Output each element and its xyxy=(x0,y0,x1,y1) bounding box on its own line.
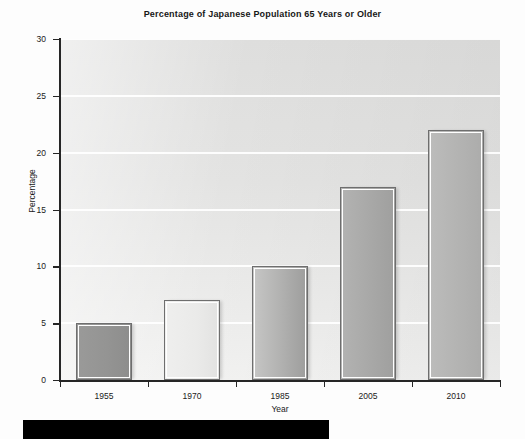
x-axis-tick-label: 2010 xyxy=(421,391,491,401)
bottom-black-band xyxy=(23,420,329,439)
bar-inner-highlight xyxy=(254,268,306,378)
y-axis-tick-label: 30 xyxy=(6,34,46,44)
x-axis-title: Year xyxy=(60,404,500,414)
y-axis-tick-label: 25 xyxy=(6,91,46,101)
y-axis-tick-label: 5 xyxy=(6,318,46,328)
y-axis-line xyxy=(59,38,61,381)
gridline xyxy=(60,39,500,40)
y-axis-tick-label: 20 xyxy=(6,148,46,158)
bar-2010 xyxy=(428,130,484,380)
x-axis-tick-label: 1955 xyxy=(69,391,139,401)
bar-1955 xyxy=(76,323,132,380)
y-axis-tick xyxy=(53,210,59,211)
x-axis-tick-label: 2005 xyxy=(333,391,403,401)
x-axis-line xyxy=(59,380,501,382)
y-axis-tick xyxy=(53,39,59,40)
chart-title: Percentage of Japanese Population 65 Yea… xyxy=(0,9,525,19)
y-axis-tick xyxy=(53,380,59,381)
y-axis-title: Percentage xyxy=(27,151,37,231)
x-axis-tick-label: 1985 xyxy=(245,391,315,401)
bar-inner-highlight xyxy=(342,189,394,378)
bar-inner-highlight xyxy=(78,325,130,378)
chart-figure: Percentage of Japanese Population 65 Yea… xyxy=(0,0,525,439)
y-axis-tick-label: 10 xyxy=(6,261,46,271)
bar-2005 xyxy=(340,187,396,380)
y-axis-tick xyxy=(53,96,59,97)
y-axis-tick-label: 0 xyxy=(6,375,46,385)
y-axis-tick xyxy=(53,266,59,267)
plot-area xyxy=(60,39,500,380)
x-axis-tick xyxy=(412,381,413,387)
bar-inner-highlight xyxy=(430,132,482,378)
x-axis-tick xyxy=(500,381,501,387)
x-axis-tick xyxy=(236,381,237,387)
gridline xyxy=(60,95,500,97)
x-axis-tick-label: 1970 xyxy=(157,391,227,401)
y-axis-tick xyxy=(53,153,59,154)
bar-1985 xyxy=(252,266,308,380)
y-axis-tick-label: 15 xyxy=(6,205,46,215)
y-axis-tick xyxy=(53,323,59,324)
x-axis-tick xyxy=(60,381,61,387)
x-axis-tick xyxy=(148,381,149,387)
bar-inner-highlight xyxy=(166,302,218,378)
x-axis-tick xyxy=(324,381,325,387)
bar-1970 xyxy=(164,300,220,380)
